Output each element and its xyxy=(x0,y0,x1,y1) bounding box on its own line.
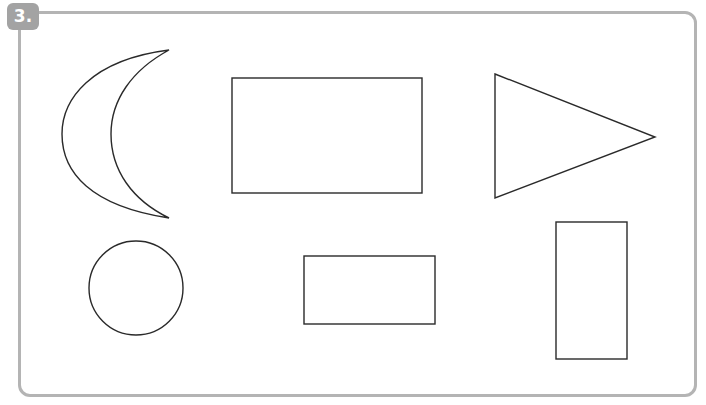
tall-rectangle-shape xyxy=(556,222,627,359)
crescent-shape xyxy=(62,50,169,218)
shapes-canvas xyxy=(0,0,706,405)
triangle-shape xyxy=(495,74,655,198)
small-rectangle-shape xyxy=(304,256,435,324)
circle-shape xyxy=(89,241,183,335)
large-rectangle-shape xyxy=(232,78,422,193)
